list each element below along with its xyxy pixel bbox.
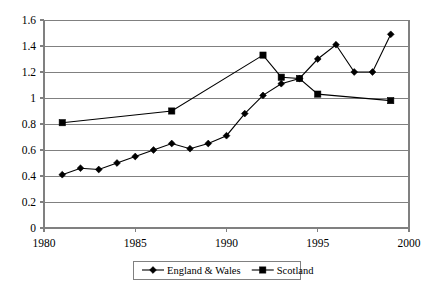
y-tick-label: 1 xyxy=(30,92,36,104)
diamond-marker-icon xyxy=(114,160,121,167)
square-marker-icon xyxy=(315,91,321,97)
legend-label: Scotland xyxy=(277,265,314,276)
series-scotland xyxy=(59,52,394,126)
series-line xyxy=(62,34,391,174)
y-tick-label: 0.4 xyxy=(22,170,37,182)
chart-canvas: 00.20.40.60.811.21.41.619801985199019952… xyxy=(0,0,431,296)
diamond-marker-icon xyxy=(369,69,376,76)
diamond-marker-icon xyxy=(187,145,194,152)
square-marker-icon xyxy=(260,267,266,273)
diamond-marker-icon xyxy=(150,147,157,154)
gridlines xyxy=(44,20,409,228)
y-tick-label: 0.2 xyxy=(22,196,37,208)
data-series-group xyxy=(59,31,394,178)
square-marker-icon xyxy=(260,52,266,58)
diamond-marker-icon xyxy=(278,80,285,87)
square-marker-icon xyxy=(388,98,394,104)
diamond-marker-icon xyxy=(351,69,358,76)
x-tick-label: 1985 xyxy=(124,237,147,249)
series-line xyxy=(62,55,391,123)
square-marker-icon xyxy=(59,120,65,126)
legend: England & WalesScotland xyxy=(133,261,314,279)
diamond-marker-icon xyxy=(205,140,212,147)
diamond-marker-icon xyxy=(387,31,394,38)
square-marker-icon xyxy=(296,75,302,81)
square-marker-icon xyxy=(278,74,284,80)
x-axis-ticks: 19801985199019952000 xyxy=(33,228,421,249)
x-tick-label: 1990 xyxy=(215,237,238,249)
diamond-marker-icon xyxy=(77,165,84,172)
y-tick-label: 0.8 xyxy=(22,118,37,130)
diamond-marker-icon xyxy=(168,140,175,147)
square-marker-icon xyxy=(169,108,175,114)
y-tick-label: 1.2 xyxy=(22,66,37,78)
x-tick-label: 1980 xyxy=(33,237,56,249)
y-tick-label: 0 xyxy=(30,222,36,234)
diamond-marker-icon xyxy=(59,171,66,178)
series-england-wales xyxy=(59,31,394,178)
y-tick-label: 0.6 xyxy=(22,144,37,156)
legend-label: England & Wales xyxy=(167,265,241,276)
line-chart: 00.20.40.60.811.21.41.619801985199019952… xyxy=(0,0,431,296)
x-tick-label: 2000 xyxy=(398,237,421,249)
y-tick-label: 1.4 xyxy=(22,40,37,52)
x-tick-label: 1995 xyxy=(306,237,329,249)
diamond-marker-icon xyxy=(95,166,102,173)
diamond-marker-icon xyxy=(132,153,139,160)
y-tick-label: 1.6 xyxy=(22,14,37,26)
y-axis-ticks: 00.20.40.60.811.21.41.6 xyxy=(22,14,44,234)
